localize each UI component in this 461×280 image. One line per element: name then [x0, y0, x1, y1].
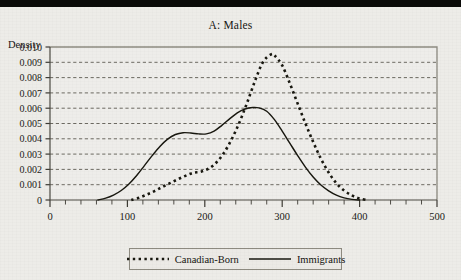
dotted-line-swatch-icon: [126, 255, 170, 263]
y-axis-tick-label: 0: [37, 195, 42, 206]
x-axis-tick-label: 500: [429, 211, 445, 222]
y-axis-tick-label: 0.001: [20, 179, 43, 190]
y-axis-tick-label: 0.002: [20, 164, 43, 175]
y-axis-tick-label: 0.008: [20, 72, 43, 83]
x-axis-tick-labels: 0100200300400500: [47, 211, 445, 222]
solid-line-swatch-icon: [248, 255, 292, 263]
y-axis-tick-label: 0.006: [20, 103, 43, 114]
x-axis-tick-label: 100: [120, 211, 136, 222]
y-axis-tick-label: 0.010: [20, 42, 43, 53]
legend-item-canadian-born: Canadian-Born: [126, 254, 239, 265]
y-axis-tick-label: 0.003: [20, 149, 43, 160]
x-axis-tick-label: 0: [47, 211, 52, 222]
y-axis-ticks-group: [46, 47, 51, 200]
x-axis-tick-label: 400: [352, 211, 368, 222]
y-axis-tick-label: 0.004: [20, 133, 43, 144]
y-axis-tick-labels: 00.0010.0020.0030.0040.0050.0060.0070.00…: [20, 42, 43, 206]
x-axis-ticks-group: [50, 200, 437, 207]
legend: Canadian-Born Immigrants: [129, 248, 342, 270]
x-axis-tick-label: 200: [197, 211, 213, 222]
top-black-band: [0, 0, 461, 7]
legend-label-canadian-born: Canadian-Born: [175, 254, 239, 265]
x-axis-tick-label: 300: [274, 211, 290, 222]
legend-label-immigrants: Immigrants: [297, 254, 345, 265]
legend-item-immigrants: Immigrants: [248, 254, 345, 265]
y-axis-tick-label: 0.009: [20, 57, 43, 68]
density-plot: 00.0010.0020.0030.0040.0050.0060.0070.00…: [0, 7, 461, 280]
figure-page: A: Males Density 00.0010.0020.0030.0040.…: [0, 7, 461, 280]
chart-canvas: 00.0010.0020.0030.0040.0050.0060.0070.00…: [0, 7, 461, 280]
y-axis-tick-label: 0.007: [20, 88, 43, 99]
y-axis-tick-label: 0.005: [20, 118, 43, 129]
